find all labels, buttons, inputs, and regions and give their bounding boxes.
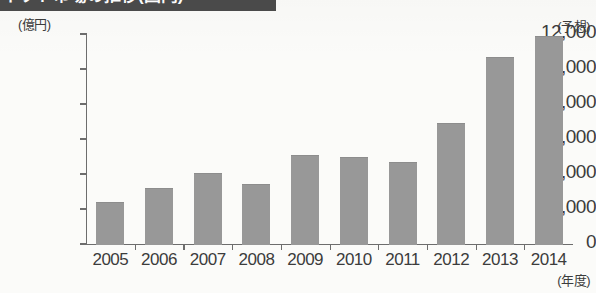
x-axis-tick-label: 2008 [232, 250, 281, 270]
x-axis-tick-label: 2014 [524, 250, 573, 270]
x-axis-tick-label: 2009 [281, 250, 330, 270]
y-axis-tick [80, 173, 87, 174]
x-axis-tick-label: 2013 [476, 250, 525, 270]
x-axis-tick-label: 2006 [135, 250, 184, 270]
bar [194, 173, 222, 245]
y-axis-tick [80, 243, 87, 244]
bar [242, 184, 270, 245]
bar [291, 155, 319, 245]
bar [535, 36, 563, 245]
y-axis-tick [80, 33, 87, 34]
y-axis-tick [80, 103, 87, 104]
bar [145, 188, 173, 245]
y-axis-tick [80, 68, 87, 69]
y-axis-tick [80, 138, 87, 139]
x-axis-tick-label: 2012 [427, 250, 476, 270]
x-axis-tick-label: 2011 [378, 250, 427, 270]
bar-chart: (億円) (予想) (年度) 02,0004,0006,0008,00010,0… [0, 0, 596, 293]
bar [389, 162, 417, 245]
x-axis-unit-label: (年度) [557, 270, 590, 289]
bar [340, 157, 368, 246]
bar [486, 57, 514, 245]
x-axis-tick-label: 2010 [330, 250, 379, 270]
bar [96, 202, 124, 245]
x-axis-tick-label: 2005 [86, 250, 135, 270]
bar [437, 123, 465, 245]
x-axis-tick-label: 2007 [183, 250, 232, 270]
y-axis-unit-label: (億円) [18, 14, 51, 33]
y-axis-tick [80, 208, 87, 209]
chart-page: ネット市場の推移(国内) (億円) (予想) (年度) 02,0004,0006… [0, 0, 596, 293]
